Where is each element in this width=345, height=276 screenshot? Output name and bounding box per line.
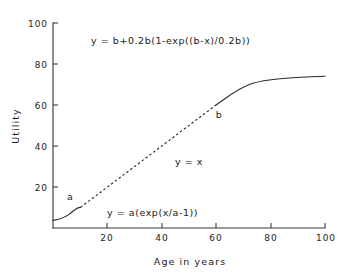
utility-vs-age-chart: 100 80 60 40 20 Utility 20 40 60 80 100 …	[0, 0, 345, 276]
y-tick-label-100: 100	[28, 19, 48, 29]
lower-equation-label: y = a(exp(x/a-1))	[107, 207, 198, 218]
y-tick-label-20: 20	[35, 183, 48, 193]
chart-figure: 100 80 60 40 20 Utility 20 40 60 80 100 …	[0, 0, 345, 276]
x-tick-label-40: 40	[155, 233, 168, 243]
y-axis-title: Utility	[10, 108, 21, 144]
x-tick-label-20: 20	[100, 233, 113, 243]
x-tick-label-80: 80	[264, 233, 277, 243]
point-a-label: a	[67, 191, 73, 202]
x-tick-label-100: 100	[316, 233, 336, 243]
x-axis-title: Age in years	[154, 256, 226, 267]
y-tick-label-80: 80	[35, 60, 48, 70]
x-tick-label-60: 60	[209, 233, 222, 243]
middle-equation-label: y = x	[175, 156, 203, 167]
y-tick-label-40: 40	[35, 142, 48, 152]
point-b-label: b	[216, 109, 222, 120]
upper-equation-label: y = b+0.2b(1-exp((b-x)/0.2b))	[91, 35, 250, 46]
y-tick-label-60: 60	[35, 101, 48, 111]
